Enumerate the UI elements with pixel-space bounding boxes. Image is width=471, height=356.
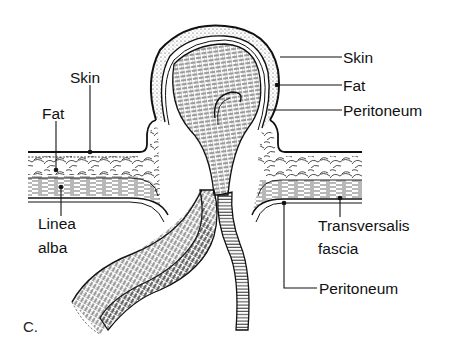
label-linea-alba-2: alba [38, 240, 67, 256]
label-transversalis-1: Transversalis [318, 218, 410, 234]
abdominal-wall-right [252, 120, 362, 222]
leader-peritoneum-wall [284, 203, 317, 288]
label-skin-right: Skin [343, 50, 373, 66]
label-transversalis-2: fascia [318, 241, 359, 257]
label-fat-left: Fat [42, 106, 64, 122]
abdominal-wall-left [28, 120, 168, 222]
label-fat-right: Fat [343, 78, 365, 94]
label-skin-left: Skin [70, 70, 100, 86]
label-linea-alba-1: Linea [38, 216, 76, 232]
hernia-diagram [0, 0, 471, 356]
label-peritoneum-sac: Peritoneum [343, 103, 422, 119]
label-peritoneum-wall: Peritoneum [319, 281, 398, 297]
panel-label: C. [23, 319, 38, 334]
